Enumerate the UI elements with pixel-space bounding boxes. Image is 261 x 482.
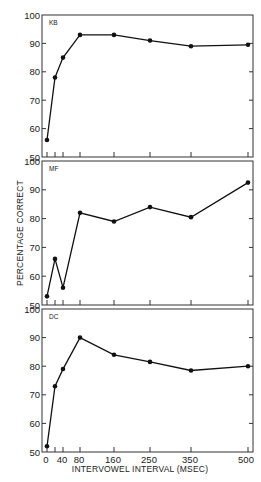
y-tick-label: 60	[29, 418, 40, 429]
panel-mf: 5060708090100MF	[24, 156, 253, 311]
data-point	[45, 138, 50, 143]
y-tick-label: 50	[29, 447, 40, 458]
data-point	[189, 215, 194, 220]
panel-label: MF	[49, 165, 58, 172]
data-point	[53, 384, 58, 389]
y-tick-label: 80	[29, 66, 40, 77]
data-point	[189, 44, 194, 49]
y-tick-label: 90	[29, 184, 40, 195]
data-point	[112, 352, 117, 357]
data-point	[112, 219, 117, 224]
panel-frame	[42, 309, 253, 452]
y-tick-label: 90	[29, 332, 40, 343]
data-point	[112, 33, 117, 38]
data-point	[78, 211, 83, 216]
data-point	[246, 180, 251, 185]
figure: 5060708090100KB5060708090100MF5060708090…	[0, 0, 261, 482]
data-point	[246, 43, 251, 48]
data-point	[61, 55, 66, 60]
data-point	[45, 444, 50, 449]
data-point	[78, 335, 83, 340]
panel-label: DC	[49, 313, 59, 320]
y-tick-label: 90	[29, 38, 40, 49]
data-point	[148, 205, 153, 210]
y-tick-label: 100	[24, 10, 40, 21]
panel-kb: 5060708090100KB	[24, 10, 253, 163]
data-line	[47, 35, 248, 140]
y-tick-label: 80	[29, 213, 40, 224]
x-tick-label: 40	[57, 454, 68, 465]
y-tick-label: 80	[29, 361, 40, 372]
data-point	[246, 364, 251, 369]
data-point	[61, 285, 66, 290]
data-point	[45, 294, 50, 299]
y-tick-label: 70	[29, 242, 40, 253]
data-line	[47, 338, 248, 447]
panel-dc: 5060708090100DC	[24, 304, 253, 458]
panel-frame	[42, 15, 253, 157]
y-tick-label: 100	[24, 304, 40, 315]
y-tick-label: 60	[29, 123, 40, 134]
x-tick-label: 0	[43, 454, 48, 465]
panel-label: KB	[49, 19, 58, 26]
data-point	[148, 360, 153, 365]
data-point	[148, 38, 153, 43]
data-point	[53, 257, 58, 262]
y-axis-title: PERCENTAGE CORRECT	[15, 180, 25, 286]
y-tick-label: 70	[29, 389, 40, 400]
y-tick-label: 70	[29, 95, 40, 106]
x-tick-label: 500	[238, 454, 254, 465]
data-point	[78, 33, 83, 38]
panel-frame	[42, 161, 253, 305]
y-tick-label: 100	[24, 156, 40, 167]
data-point	[189, 368, 194, 373]
y-tick-label: 60	[29, 271, 40, 282]
data-line	[47, 183, 248, 297]
x-axis-title: INTERVOWEL INTERVAL (MSEC)	[72, 464, 208, 474]
data-point	[61, 367, 66, 372]
data-point	[53, 75, 58, 80]
